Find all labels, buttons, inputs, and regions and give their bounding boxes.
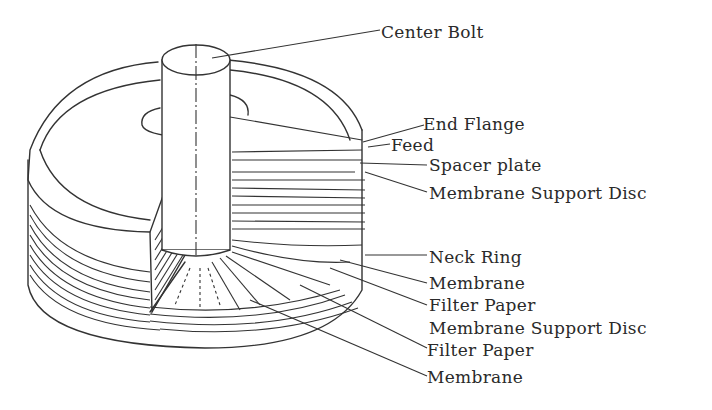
label-membrane-1: Membrane (429, 273, 525, 293)
center-bolt-shape (162, 44, 230, 256)
neck-ring-shape-right (230, 95, 248, 115)
bottom-fan (150, 246, 350, 312)
label-membrane-2: Membrane (427, 367, 523, 387)
module-drawing (0, 0, 712, 410)
label-spacer-plate: Spacer plate (429, 155, 542, 175)
label-center-bolt: Center Bolt (381, 22, 484, 42)
label-filter-paper-1: Filter Paper (429, 295, 536, 315)
label-feed: Feed (391, 135, 434, 155)
membrane-module-diagram: Center Bolt End Flange Feed Spacer plate… (0, 0, 712, 410)
label-membrane-support-disc-1: Membrane Support Disc (429, 183, 647, 203)
label-membrane-support-disc-2: Membrane Support Disc (429, 318, 647, 338)
label-end-flange: End Flange (423, 114, 525, 134)
disc-layer-edges (230, 117, 365, 246)
label-neck-ring: Neck Ring (429, 247, 522, 267)
label-filter-paper-2: Filter Paper (427, 340, 534, 360)
